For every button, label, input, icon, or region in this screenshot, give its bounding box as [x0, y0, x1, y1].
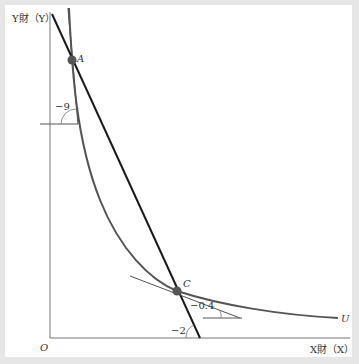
- point-c: [173, 287, 182, 296]
- slope-label-a: −9: [55, 101, 70, 112]
- angle-arc-c: [220, 311, 221, 318]
- angle-arc-budget: [186, 325, 194, 338]
- curve-u-label: U: [341, 313, 350, 324]
- origin-label: O: [40, 342, 48, 353]
- point-a-label: A: [76, 53, 84, 64]
- x-axis-label: X財（X）: [310, 343, 354, 355]
- point-a: [68, 56, 77, 65]
- slope-label-budget: −2: [171, 325, 186, 336]
- slope-label-c: −0.4: [190, 300, 214, 311]
- y-axis-label: Y財（Y）: [11, 12, 55, 24]
- indifference-curve-u: [69, 8, 338, 318]
- point-c-label: C: [183, 278, 191, 289]
- indifference-curve-diagram: A C U −9 −0.4 −2 Y財（Y） X財（X） O: [0, 0, 359, 364]
